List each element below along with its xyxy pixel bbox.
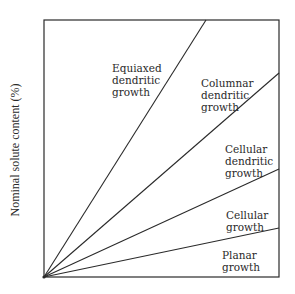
region-label-equiaxed: Equiaxeddendriticgrowth <box>112 62 162 98</box>
growth-morphology-chart: EquiaxeddendriticgrowthColumnardendritic… <box>0 0 295 294</box>
y-axis-label: Nominal solute content (%) <box>8 84 22 217</box>
boundary-line-equiaxed-columnar <box>44 20 206 277</box>
region-label-cellular-dendritic: Cellulardendriticgrowth <box>225 143 273 179</box>
region-labels: EquiaxeddendriticgrowthColumnardendritic… <box>112 62 273 273</box>
region-label-cellular: Cellulargrowth <box>226 209 269 233</box>
origin-point <box>42 275 45 278</box>
region-label-columnar: Columnardendriticgrowth <box>201 77 254 113</box>
region-label-planar: Planargrowth <box>222 249 260 273</box>
